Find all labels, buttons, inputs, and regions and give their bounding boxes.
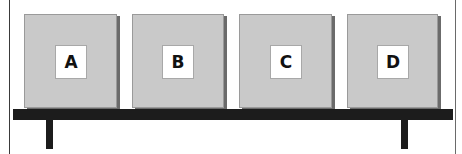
- right-border-line: [455, 0, 456, 154]
- box-a: A: [24, 14, 117, 108]
- left-border-line: [9, 0, 10, 154]
- box-b: B: [132, 14, 224, 108]
- box-d-label: D: [377, 45, 409, 79]
- box-c-label: C: [270, 45, 302, 79]
- shelf-leg-left: [46, 119, 53, 149]
- box-a-label: A: [55, 45, 87, 79]
- shelf: [13, 109, 453, 120]
- box-c: C: [239, 14, 332, 108]
- box-d: D: [347, 14, 438, 108]
- shelf-leg-right: [401, 119, 408, 149]
- box-b-label: B: [162, 45, 194, 79]
